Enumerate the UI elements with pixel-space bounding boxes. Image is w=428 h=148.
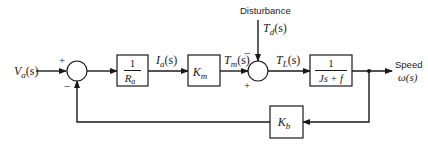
feedback-path-to-sum1 [77,81,270,122]
disturbance-title: Disturbance [240,5,291,16]
block-ra-numerator: 1 [130,57,136,69]
disturbance-label: Td(s) [263,21,287,37]
sum2-plus-sign: + [244,79,250,91]
signal-ia-label: Ia(s) [155,53,177,69]
sum2-minus-sign: − [244,46,251,60]
summing-junction-2 [248,61,268,81]
sum1-minus-sign: − [64,79,71,93]
signal-tl-label: TL(s) [276,53,300,69]
block-diagram: Va(s) + − 1 Ra Ia(s) Km Tm(s) + − Distur… [0,0,428,148]
output-label: ω(s) [398,71,418,84]
output-title: Speed [395,59,422,70]
input-label: Va(s) [14,64,39,80]
block-plant-denominator: Js + f [319,73,345,84]
summing-junction-1 [67,61,87,81]
sum1-plus-sign: + [59,54,65,66]
block-plant-numerator: 1 [328,57,334,69]
